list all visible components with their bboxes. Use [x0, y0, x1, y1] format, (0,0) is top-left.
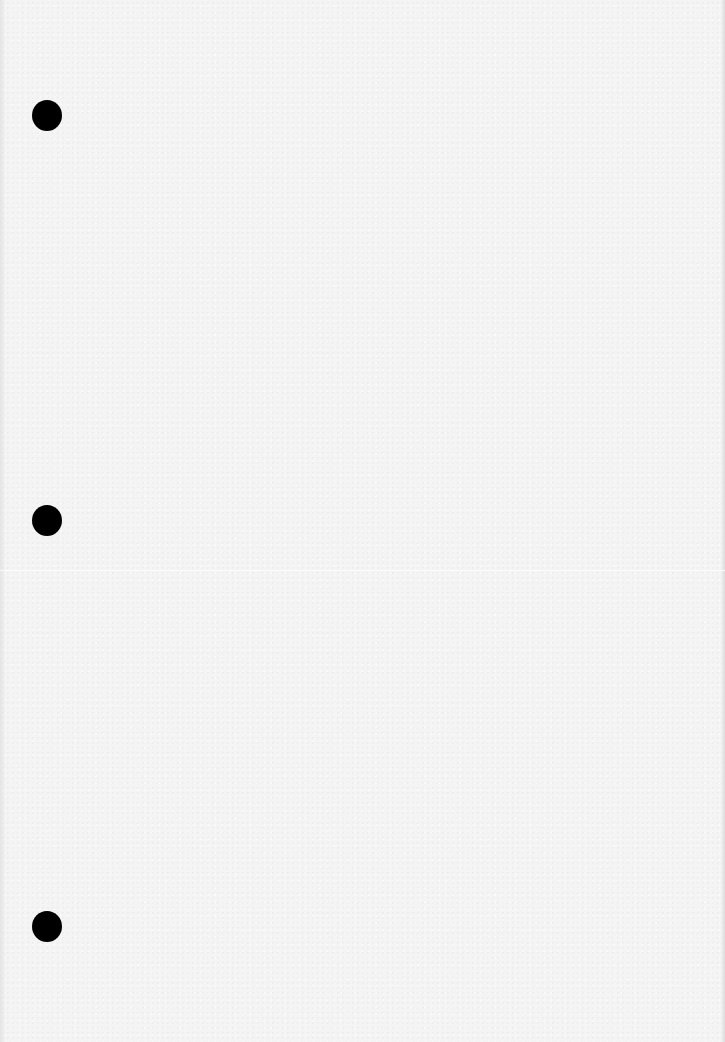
faint-scan-line: [0, 570, 725, 571]
punch-hole-middle: [32, 505, 62, 536]
blank-paper-sheet: [0, 0, 725, 1042]
paper-left-edge-shadow: [0, 0, 6, 1042]
punch-hole-top: [32, 100, 62, 131]
punch-hole-bottom: [32, 911, 62, 942]
paper-right-edge-shadow: [721, 0, 725, 1042]
